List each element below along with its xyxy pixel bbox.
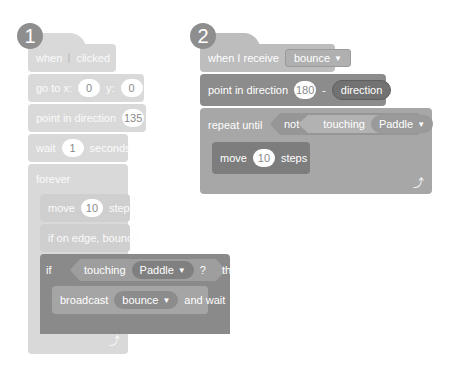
receive-message-dropdown[interactable]: bounce ▼	[285, 49, 351, 67]
direction-input[interactable]: 135	[122, 109, 144, 127]
touching-label: touching	[323, 118, 365, 130]
move-label: move	[220, 152, 247, 164]
steps-input[interactable]: 10	[253, 149, 275, 167]
when-label: when	[36, 52, 62, 64]
direction-value-input[interactable]: 180	[294, 81, 316, 99]
touching-target-dropdown-2[interactable]: Paddle ▼	[371, 115, 433, 133]
not-label: not	[284, 118, 299, 130]
forever-label: forever	[36, 173, 70, 185]
touching-target-dropdown[interactable]: Paddle ▼	[132, 261, 194, 279]
loop-arrow-icon: ⤴	[109, 332, 120, 348]
target-value: Paddle	[140, 264, 174, 276]
goto-label: go to x:	[36, 82, 72, 94]
green-flag-icon	[68, 53, 70, 63]
touching-label: touching	[84, 264, 126, 276]
go-to-xy-block[interactable]: go to x: 0 y: 0	[28, 74, 144, 102]
x-input[interactable]: 0	[78, 79, 100, 97]
if-on-edge-bounce-block[interactable]: if on edge, bounce	[40, 224, 130, 252]
y-label: y:	[106, 82, 115, 94]
when-flag-clicked-block[interactable]: when clicked	[28, 44, 116, 72]
when-receive-label: when I receive	[208, 52, 279, 64]
wait-block[interactable]: wait 1 seconds	[28, 134, 128, 162]
steps-label: steps	[109, 202, 135, 214]
point-in-direction-block[interactable]: point in direction 135	[28, 104, 146, 132]
broadcast-message-dropdown[interactable]: bounce ▼	[114, 291, 178, 309]
y-input[interactable]: 0	[121, 79, 143, 97]
wait-label: wait	[36, 142, 56, 154]
dropdown-arrow-icon: ▼	[178, 266, 186, 275]
loop-arrow-icon: ⤴	[413, 174, 424, 190]
step-badge-1: 1	[17, 23, 43, 49]
broadcast-and-wait-block[interactable]: broadcast bounce ▼ and wait	[52, 286, 208, 314]
and-wait-label: and wait	[184, 294, 225, 306]
then-label: then	[222, 264, 243, 276]
move-steps-block-2[interactable]: move 10 steps	[212, 142, 310, 174]
move-label: move	[48, 202, 75, 214]
minus-operator: -	[322, 84, 326, 96]
question-mark: ?	[200, 264, 206, 276]
direction-reporter[interactable]: direction	[332, 80, 392, 100]
edge-label: if on edge, bounce	[48, 232, 139, 244]
dropdown-arrow-icon: ▼	[162, 296, 170, 305]
dropdown-arrow-icon: ▼	[417, 120, 425, 129]
point-label: point in direction	[208, 84, 288, 96]
if-label: if	[46, 264, 52, 276]
message-value: bounce	[122, 294, 158, 306]
clicked-label: clicked	[76, 52, 110, 64]
message-value: bounce	[294, 52, 330, 64]
point-label: point in direction	[36, 112, 116, 124]
question-mark: ?	[439, 118, 445, 130]
dropdown-arrow-icon: ▼	[334, 54, 342, 63]
step-badge-2: 2	[190, 23, 216, 49]
seconds-label: seconds	[90, 142, 131, 154]
move-steps-block[interactable]: move 10 steps	[40, 194, 130, 222]
steps-label: steps	[281, 152, 307, 164]
seconds-input[interactable]: 1	[62, 139, 84, 157]
if-bottom-bar	[40, 314, 230, 334]
when-i-receive-block[interactable]: when I receive bounce ▼	[200, 44, 335, 72]
steps-input[interactable]: 10	[81, 199, 103, 217]
point-in-direction-block-2[interactable]: point in direction 180 - direction	[200, 74, 386, 106]
repeat-until-label: repeat until	[208, 119, 262, 131]
broadcast-label: broadcast	[60, 294, 108, 306]
target-value: Paddle	[379, 118, 413, 130]
